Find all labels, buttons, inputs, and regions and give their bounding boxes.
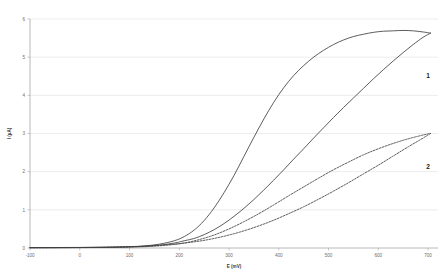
chart-container: 0123456-1000100200300400500600700 E (mV)… [0,0,447,280]
series-annotation-2: 2 [426,163,430,170]
curve-series-1-forward [30,30,431,247]
data-curves-group [30,30,431,247]
x-tick-label: 200 [175,253,183,258]
curve-series-2-reverse [30,134,431,248]
x-tick-label: 700 [424,253,432,258]
series-annotations-group: 12 [426,72,430,170]
x-tick-label: 400 [275,253,283,258]
y-tick-label: 0 [22,246,25,251]
x-tick-label: 0 [78,253,81,258]
x-tick-label: 500 [325,253,333,258]
x-tick-label: 100 [126,253,134,258]
y-tick-label: 6 [22,17,25,22]
chart-plot-svg: 0123456-1000100200300400500600700 E (mV)… [0,0,447,280]
gridlines-group [30,19,438,210]
y-tick-label: 2 [22,169,25,174]
curve-series-2-forward [30,134,431,248]
x-tick-label: 600 [374,253,382,258]
x-axis-title: E (mV) [227,264,242,269]
y-axis-title: I (µA) [7,127,12,139]
x-tick-label: -100 [25,253,35,258]
y-tick-label: 4 [22,93,25,98]
curve-series-1-reverse [30,33,431,248]
y-tick-label: 1 [22,208,25,213]
axes-group [28,19,439,251]
x-tick-label: 300 [225,253,233,258]
series-annotation-1: 1 [426,72,430,79]
y-tick-label: 3 [22,131,25,136]
y-tick-label: 5 [22,55,25,60]
